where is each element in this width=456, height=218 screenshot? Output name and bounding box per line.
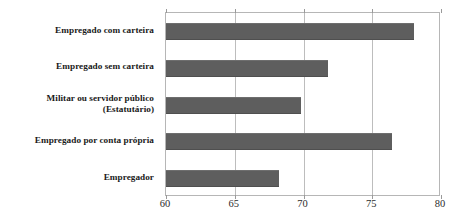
category-label-line: Empregador — [0, 172, 154, 184]
x-axis-tick-label: 80 — [435, 198, 446, 209]
chart-title-remnant — [0, 0, 456, 1]
category-label-line: Militar ou servidor público — [0, 93, 154, 105]
category-label: Empregador — [0, 172, 154, 184]
axis-tick-mark — [372, 9, 373, 13]
gridline — [372, 13, 373, 195]
category-label: Empregado por conta própria — [0, 135, 154, 147]
x-axis-tick-label: 70 — [297, 198, 308, 209]
axis-tick-mark — [304, 9, 305, 13]
axis-tick-mark — [235, 9, 236, 13]
category-label-line: Empregado sem carteira — [0, 61, 154, 73]
category-label: Empregado com carteira — [0, 25, 154, 37]
category-label-line: Empregado com carteira — [0, 25, 154, 37]
bar — [166, 97, 301, 114]
bar-chart: Empregado com carteiraEmpregado sem cart… — [0, 0, 456, 218]
axis-tick-mark — [166, 9, 167, 13]
category-label-line: (Estatutário) — [0, 104, 154, 116]
x-axis-tick-labels: 6065707580 — [165, 198, 440, 216]
x-axis-tick-label: 65 — [229, 198, 240, 209]
x-axis-tick-label: 75 — [366, 198, 377, 209]
category-label-column: Empregado com carteiraEmpregado sem cart… — [0, 12, 160, 196]
category-label: Empregado sem carteira — [0, 61, 154, 73]
bar — [166, 133, 392, 150]
x-axis-tick-label: 60 — [160, 198, 171, 209]
plot-area — [165, 12, 440, 196]
bar — [166, 23, 414, 40]
bar — [166, 170, 279, 187]
category-label-line: Empregado por conta própria — [0, 135, 154, 147]
category-label: Militar ou servidor público(Estatutário) — [0, 93, 154, 116]
axis-tick-mark — [441, 9, 442, 13]
bar — [166, 60, 328, 77]
gridline — [304, 13, 305, 195]
